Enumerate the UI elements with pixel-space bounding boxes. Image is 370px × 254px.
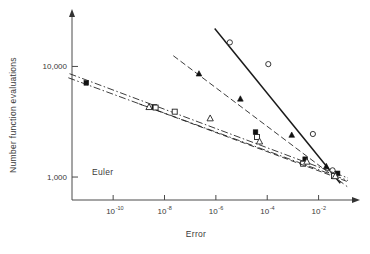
data-point-square-open [172,109,177,114]
x-axis-ticks: 10-1010-810-610-410-2 [106,195,326,216]
method-annotation: Euler [92,167,113,177]
x-tick-label: 10 [260,207,269,216]
y-tick-label: 1,000 [47,173,68,182]
data-point-triangle-filled [289,132,295,137]
x-tick-label: 10 [158,207,167,216]
data-point-triangle-filled [238,96,244,101]
x-tick-label: 10 [106,207,115,216]
x-tick-exponent: -4 [270,205,275,211]
y-axis-title: Number function evaluations [8,57,18,173]
series-open-square [68,78,348,181]
x-tick-exponent: -10 [116,205,124,211]
data-point-circle-open [227,40,232,45]
series-filled-triangle [173,56,347,187]
data-point-square-open [153,105,158,110]
y-axis-ticks: 10,0001,000 [43,62,78,182]
y-axis-arrow-icon [69,9,75,17]
data-point-circle-open [266,62,271,67]
x-tick-exponent: -2 [321,205,326,211]
x-tick-label: 10 [312,207,321,216]
data-series-layer [68,29,348,187]
y-tick-label: 10,000 [43,62,68,71]
series-open-circle-steep [215,29,341,184]
data-point-triangle-open [207,115,213,121]
log-log-chart: 10-1010-810-610-410-2 10,0001,000 Error … [0,0,370,254]
x-tick-exponent: -6 [218,205,223,211]
x-tick-label: 10 [209,207,218,216]
series-trendline [215,29,341,184]
data-point-circle-open [310,131,315,136]
x-axis-arrow-icon [352,197,360,203]
figure-root: 10-1010-810-610-410-2 10,0001,000 Error … [0,0,370,254]
data-point-square-filled [253,130,258,135]
x-axis-title: Error [186,229,206,239]
x-tick-exponent: -8 [167,205,172,211]
